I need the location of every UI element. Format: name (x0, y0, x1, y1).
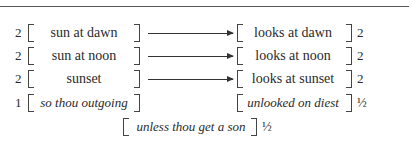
right-bracket-close (346, 94, 352, 112)
bottom-count: ½ (262, 116, 272, 138)
diagram-row: 2 sun at dawn looks at dawn 2 (0, 22, 412, 44)
arrow-icon (148, 33, 233, 34)
diagram-row-bottom: unless thou get a son ½ (0, 116, 412, 138)
left-count: 2 (15, 68, 22, 90)
left-text: sun at dawn (34, 22, 134, 44)
right-text: looks at noon (243, 45, 343, 67)
right-text: looks at dawn (243, 22, 343, 44)
right-bracket-close (346, 47, 352, 65)
bottom-text: unless thou get a son (130, 116, 252, 138)
left-count: 2 (15, 45, 22, 67)
right-text: unlooked on diest (243, 92, 343, 114)
diagram-row: 2 sun at noon looks at noon 2 (0, 45, 412, 67)
bottom-bracket-open (123, 118, 129, 136)
arrow-icon (148, 79, 233, 80)
left-count: 2 (15, 22, 22, 44)
right-text: looks at sunset (243, 68, 343, 90)
left-text: so thou outgoing (34, 92, 134, 114)
left-count: 1 (15, 92, 22, 114)
left-bracket-close (134, 94, 140, 112)
right-bracket-close (346, 24, 352, 42)
arrow-icon (148, 56, 233, 57)
bottom-bracket-close (251, 118, 257, 136)
right-bracket-close (346, 70, 352, 88)
left-text: sunset (34, 68, 134, 90)
left-bracket-close (134, 70, 140, 88)
diagram-row: 2 sunset looks at sunset 2 (0, 68, 412, 90)
right-count: 2 (357, 22, 364, 44)
right-count: 2 (357, 68, 364, 90)
right-count: 2 (357, 45, 364, 67)
top-rule (0, 6, 409, 7)
left-text: sun at noon (34, 45, 134, 67)
left-bracket-close (134, 24, 140, 42)
right-count: ½ (357, 92, 367, 114)
diagram-row: 1 so thou outgoing unlooked on diest ½ (0, 92, 412, 114)
left-bracket-close (134, 47, 140, 65)
